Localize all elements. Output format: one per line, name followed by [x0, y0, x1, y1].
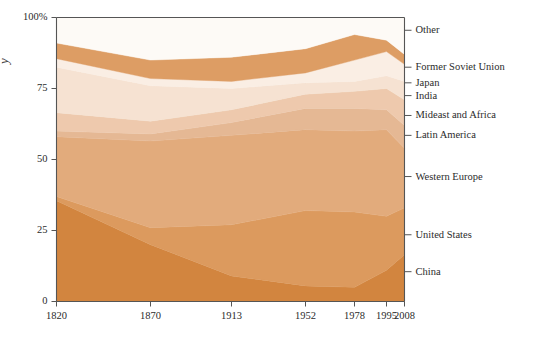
y-tick-label: 75	[37, 83, 48, 94]
legend-item-former-soviet-union: Former Soviet Union	[416, 62, 505, 73]
x-tick-label: 1952	[284, 311, 328, 322]
area-series-group	[57, 18, 405, 302]
y-tick-label: 100%	[23, 12, 48, 23]
legend-item-western-europe: Western Europe	[416, 172, 483, 183]
y-tick-label: 0	[42, 296, 47, 307]
legend-item-japan: Japan	[416, 78, 440, 89]
stacked-area-chart: y 0255075100% 18201870191319521978199520…	[0, 0, 537, 343]
legend-item-other: Other	[416, 25, 440, 36]
x-tick-label: 1820	[35, 311, 79, 322]
legend-item-mideast-and-africa: Mideast and Africa	[416, 110, 496, 121]
legend-item-latin-america: Latin America	[416, 130, 476, 141]
legend-item-united-states: United States	[416, 230, 472, 241]
y-tick-label: 50	[37, 154, 48, 165]
x-tick-label: 1913	[210, 311, 254, 322]
x-tick-label: 2008	[383, 311, 427, 322]
legend-item-china: China	[416, 267, 441, 278]
y-tick-label: 25	[37, 225, 48, 236]
legend-item-india: India	[416, 91, 438, 102]
x-tick-label: 1870	[129, 311, 173, 322]
